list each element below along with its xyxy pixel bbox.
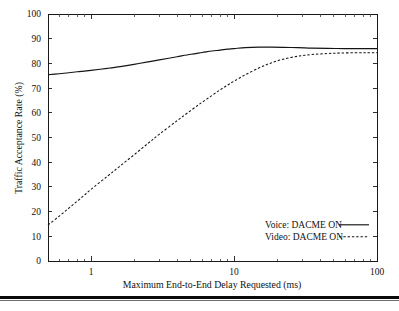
y-tick-label: 50	[32, 133, 42, 143]
y-tick-label: 40	[32, 158, 42, 168]
x-tick-label: 10	[229, 267, 239, 277]
y-tick-label: 60	[32, 108, 42, 118]
chart-background	[0, 0, 399, 311]
y-tick-label: 10	[32, 232, 42, 242]
y-tick-label: 90	[32, 34, 42, 44]
y-axis-title: Traffic Acceptance Rate (%)	[13, 82, 25, 194]
bottom-divider-thin	[0, 300, 399, 301]
legend-label: Video: DACME ON	[265, 232, 343, 242]
y-tick-label: 70	[32, 84, 42, 94]
y-tick-label: 20	[32, 207, 42, 217]
y-tick-label: 0	[36, 256, 41, 266]
x-tick-label: 1	[89, 267, 94, 277]
y-tick-label: 30	[32, 182, 42, 192]
traffic-acceptance-rate-chart: 0102030405060708090100 110100 Voice: DAC…	[0, 0, 399, 311]
chart-figure: 0102030405060708090100 110100 Voice: DAC…	[0, 0, 399, 311]
x-tick-label: 100	[370, 267, 385, 277]
bottom-divider-thick	[0, 296, 399, 299]
legend-label: Voice: DACME ON	[265, 220, 342, 230]
x-axis-title: Maximum End-to-End Delay Requested (ms)	[123, 279, 301, 291]
y-tick-label: 80	[32, 59, 42, 69]
y-tick-label: 100	[27, 9, 42, 19]
